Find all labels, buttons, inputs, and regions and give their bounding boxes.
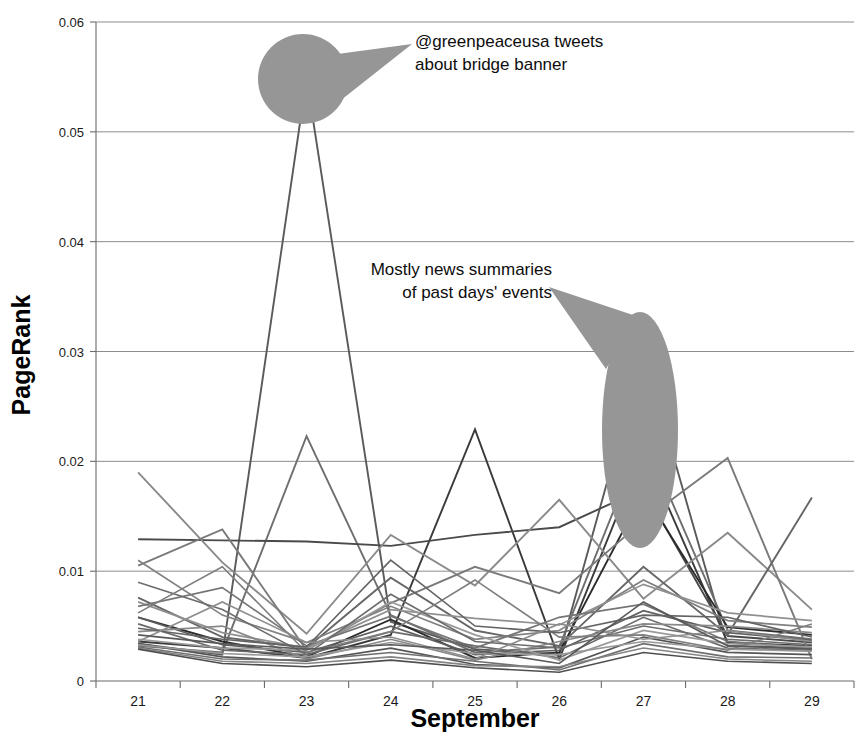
annotation-text-line: @greenpeaceusa tweets [415, 32, 603, 51]
y-tick-label: 0.01 [59, 564, 84, 579]
x-tick-label: 27 [636, 693, 652, 709]
series-line [138, 78, 812, 655]
annotation-text-line: about bridge banner [415, 55, 568, 74]
x-tick-label: 29 [804, 693, 820, 709]
y-tick-label: 0.02 [59, 454, 84, 469]
annotation-text-line: Mostly news summaries [371, 260, 552, 279]
greenpeace-callout [258, 34, 412, 124]
annotation-labels: @greenpeaceusa tweetsabout bridge banner… [371, 32, 604, 302]
x-axis [96, 681, 854, 688]
y-tick-marks [90, 22, 96, 681]
pagerank-line-chart: 00.010.020.030.040.050.06 21222324252627… [0, 0, 861, 749]
y-axis [90, 22, 96, 681]
y-tick-label: 0.05 [59, 125, 84, 140]
x-tick-label: 23 [299, 693, 315, 709]
x-axis-title: September [410, 704, 539, 732]
y-tick-labels: 00.010.020.030.040.050.06 [59, 15, 84, 689]
y-tick-label: 0.03 [59, 345, 84, 360]
data-series-group [138, 78, 812, 672]
y-axis-title: PageRank [7, 294, 35, 415]
x-tick-label: 22 [215, 693, 231, 709]
annotation-text-line: of past days' events [402, 283, 552, 302]
x-tick-label: 21 [130, 693, 146, 709]
x-tick-label: 28 [720, 693, 736, 709]
y-tick-label: 0.06 [59, 15, 84, 30]
x-tick-label: 24 [383, 693, 399, 709]
y-tick-label: 0 [77, 674, 84, 689]
y-tick-label: 0.04 [59, 235, 84, 250]
news-summaries-callout [549, 287, 678, 548]
callout-circle-greenpeace [258, 34, 348, 124]
x-tick-label: 26 [551, 693, 567, 709]
callout-ellipse-news [602, 312, 678, 548]
x-tick-marks [96, 681, 854, 688]
chart-canvas: 00.010.020.030.040.050.06 21222324252627… [0, 0, 861, 749]
